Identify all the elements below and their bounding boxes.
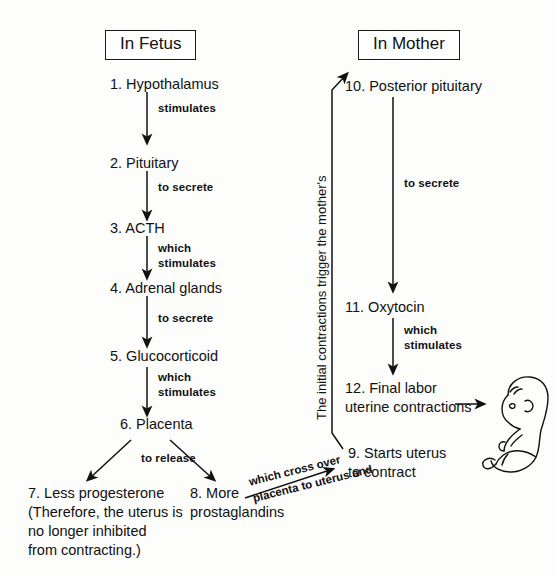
node-1-hypothalamus: 1. Hypothalamus (110, 75, 219, 94)
node-4-adrenal-glands: 4. Adrenal glands (110, 279, 222, 298)
edge-label-which-stimulates-3-4: which stimulates (158, 241, 216, 271)
node-7-less-progesterone: 7. Less progesterone (Therefore, the ute… (28, 484, 183, 561)
edge-label-stimulates-3-4: stimulates (158, 256, 216, 271)
node-12-line-2: uterine contractions (345, 398, 472, 417)
node-12-final-labor: 12. Final labor uterine contractions (345, 379, 472, 417)
edge-label-which-3-4: which (158, 241, 216, 256)
node-7-line-4: from contracting.) (28, 541, 183, 560)
edge-label-which-stimulates-11-12: which stimulates (404, 323, 462, 353)
edge-label-which-stimulates-5-6: which stimulates (158, 370, 216, 400)
flowchart-diagram: In Fetus In Mother 1. Hypothalamus 2. Pi… (0, 0, 556, 576)
edge-label-to-secrete-10-11: to secrete (404, 176, 459, 191)
edge-label-to-release-6-split: to release (141, 451, 196, 466)
edge-label-to-secrete-4-5: to secrete (158, 311, 213, 326)
fetus-illustration-svg (478, 373, 554, 483)
edge-label-cross-over-placenta: which cross over placenta to uterus and (247, 444, 374, 506)
node-3-acth: 3. ACTH (110, 219, 165, 238)
node-10-posterior-pituitary: 10. Posterior pituitary (345, 77, 482, 96)
header-box-in-fetus-label: In Fetus (120, 34, 181, 53)
edge-label-initial-contractions-vertical: The initial contractions trigger the mot… (314, 175, 329, 420)
edge-label-stimulates-11-12: stimulates (404, 338, 462, 353)
header-box-in-mother: In Mother (358, 30, 460, 60)
fetus-illustration (478, 373, 554, 487)
edge-label-which-11-12: which (404, 323, 462, 338)
node-7-line-1: 7. Less progesterone (28, 484, 183, 503)
node-2-pituitary: 2. Pituitary (110, 154, 179, 173)
edge-label-stimulates-5-6: stimulates (158, 385, 216, 400)
node-6-placenta: 6. Placenta (120, 415, 193, 434)
node-11-oxytocin: 11. Oxytocin (345, 298, 425, 317)
node-5-glucocorticoid: 5. Glucocorticoid (110, 347, 218, 366)
arrow-9-to-10 (332, 76, 345, 449)
edge-label-which-5-6: which (158, 370, 216, 385)
node-8-line-2: prostaglandins (190, 503, 284, 522)
node-7-line-2: (Therefore, the uterus is (28, 503, 183, 522)
header-box-in-fetus: In Fetus (105, 30, 196, 60)
node-12-line-1: 12. Final labor (345, 379, 472, 398)
header-box-in-mother-label: In Mother (373, 34, 445, 53)
edge-label-stimulates-1-2: stimulates (158, 101, 216, 116)
edge-label-to-secrete-2-3: to secrete (158, 180, 213, 195)
arrow-6-to-7 (90, 440, 131, 478)
node-7-line-3: no longer inhibited (28, 522, 183, 541)
